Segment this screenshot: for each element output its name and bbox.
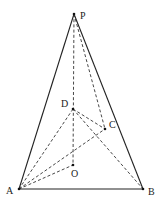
dashed-edges bbox=[19, 14, 143, 189]
vertex-labels: PDCOAB bbox=[6, 10, 155, 197]
segment-PB bbox=[74, 14, 143, 189]
label-A: A bbox=[6, 185, 14, 196]
label-B: B bbox=[148, 186, 155, 197]
segment-DB bbox=[73, 109, 143, 189]
point-A bbox=[18, 188, 21, 191]
segment-PO bbox=[73, 14, 74, 165]
point-P bbox=[73, 13, 76, 16]
segment-PC bbox=[74, 14, 105, 129]
segment-DA bbox=[19, 109, 73, 189]
point-O bbox=[72, 164, 75, 167]
segment-AO bbox=[19, 165, 73, 189]
label-D: D bbox=[61, 98, 68, 109]
point-D bbox=[72, 108, 75, 111]
segment-AC bbox=[19, 129, 105, 189]
pyramid-diagram: PDCOAB bbox=[0, 0, 161, 205]
point-C bbox=[104, 128, 107, 131]
label-P: P bbox=[80, 10, 86, 21]
label-O: O bbox=[71, 168, 78, 179]
point-B bbox=[142, 188, 145, 191]
label-C: C bbox=[109, 119, 116, 130]
